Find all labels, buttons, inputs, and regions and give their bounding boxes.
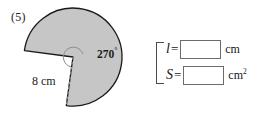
answer-group: l = cm S = cm2 bbox=[156, 36, 268, 92]
unit-label-cm-squared: cm2 bbox=[224, 68, 246, 83]
answer-input-arc-length[interactable] bbox=[180, 40, 221, 59]
unit-label-cm: cm bbox=[221, 42, 240, 57]
degree-symbol: ° bbox=[114, 46, 117, 55]
answer-row-arc-length: l = cm bbox=[166, 38, 240, 60]
equals-sign-s: = bbox=[174, 67, 183, 83]
answer-row-area: S = cm2 bbox=[166, 64, 247, 86]
angle-label: 270° bbox=[97, 48, 117, 60]
sector-svg bbox=[18, 4, 130, 118]
worksheet-page: (5) 270° 8 cm l = cm S = cm2 bbox=[0, 0, 269, 120]
unit-text-s: cm bbox=[228, 68, 243, 82]
unit-exponent-s: 2 bbox=[243, 67, 247, 76]
variable-label-s: S bbox=[166, 67, 174, 83]
group-brace bbox=[156, 42, 164, 84]
angle-value: 270 bbox=[97, 48, 114, 60]
equals-sign-l: = bbox=[171, 41, 180, 57]
radius-label: 8 cm bbox=[32, 74, 56, 89]
answer-input-area[interactable] bbox=[183, 66, 224, 85]
unit-text-l: cm bbox=[225, 42, 240, 56]
sector-figure: 270° 8 cm bbox=[18, 4, 130, 118]
